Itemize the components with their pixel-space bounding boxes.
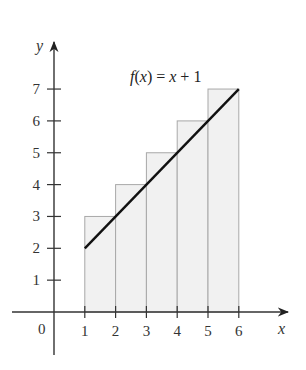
y-tick-label: 4 xyxy=(33,177,41,193)
function-label: f(x) = x + 1 xyxy=(130,68,201,86)
y-tick-label: 5 xyxy=(33,145,41,161)
x-tick-label: 6 xyxy=(235,323,243,339)
y-tick-label: 7 xyxy=(33,81,41,97)
x-tick-label: 5 xyxy=(204,323,212,339)
y-tick-label: 1 xyxy=(33,272,41,288)
y-tick-label: 6 xyxy=(33,113,41,129)
x-tick-label: 3 xyxy=(143,323,151,339)
rectangle-2 xyxy=(116,185,147,312)
y-axis-ticks: 1234567 xyxy=(33,81,62,288)
riemann-sum-chart: 123456 1234567 f(x) = x + 1 y x 0 xyxy=(0,0,306,370)
rectangle-3 xyxy=(146,153,177,312)
y-tick-label: 2 xyxy=(33,240,41,256)
x-tick-label: 4 xyxy=(173,323,181,339)
y-tick-label: 3 xyxy=(33,208,41,224)
rectangles xyxy=(85,89,239,312)
y-axis-label: y xyxy=(34,37,44,55)
x-axis-label: x xyxy=(277,320,285,337)
origin-label: 0 xyxy=(38,321,46,337)
rectangle-5 xyxy=(208,89,239,312)
x-tick-label: 1 xyxy=(81,323,89,339)
x-tick-label: 2 xyxy=(112,323,120,339)
